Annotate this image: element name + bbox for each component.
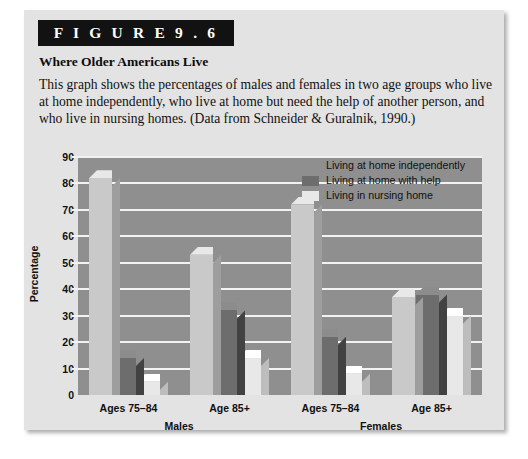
legend-label: Living at home with help xyxy=(326,174,441,186)
x-group-label: Females xyxy=(360,420,402,432)
bar-front-face xyxy=(190,255,213,395)
x-category-label: Ages 75–84 xyxy=(302,402,360,414)
bar-front-face xyxy=(89,178,112,395)
x-category-label: Age 85+ xyxy=(411,402,452,414)
bar-side-face xyxy=(112,178,120,395)
bar-side-face xyxy=(136,358,144,395)
figure-number-label: F I G U R E 9 . 6 xyxy=(38,20,234,46)
bar-top-face xyxy=(190,247,213,255)
legend-item: Living at home independently xyxy=(302,159,528,173)
y-tick-label: 40 xyxy=(50,283,74,295)
y-tick-label: 80 xyxy=(50,177,74,189)
plot-area: Living at home independentlyLiving at ho… xyxy=(78,157,482,395)
y-axis-label: Percentage xyxy=(28,246,40,303)
y-tick-label: 70 xyxy=(50,204,74,216)
y-tick-label: 30 xyxy=(50,310,74,322)
figure-title: Where Older Americans Live xyxy=(39,54,489,70)
bar-top-face xyxy=(89,170,112,178)
y-tick-label: 10 xyxy=(50,363,74,375)
bar xyxy=(89,178,112,395)
bar-side-face xyxy=(362,374,370,395)
y-tick-label: 20 xyxy=(50,336,74,348)
bar-side-face xyxy=(261,358,269,395)
legend-swatch xyxy=(302,161,319,171)
bar-side-face xyxy=(314,205,322,395)
legend-label: Living in nursing home xyxy=(326,189,433,201)
legend-item: Living at home with help xyxy=(302,174,528,188)
figure-card: F I G U R E 9 . 6 Where Older Americans … xyxy=(24,10,504,430)
x-category-label: Age 85+ xyxy=(209,402,250,414)
x-group-label: Males xyxy=(164,420,193,432)
bar-side-face xyxy=(415,297,423,395)
y-tick-label: 60 xyxy=(50,230,74,242)
bar xyxy=(291,205,314,395)
figure-banner: F I G U R E 9 . 6 xyxy=(38,20,234,46)
bar-side-face xyxy=(463,316,471,395)
legend-item: Living in nursing home xyxy=(302,189,528,203)
y-axis-ticks: 0102030405060708090 xyxy=(44,157,74,395)
bar xyxy=(190,255,213,395)
bar-front-face xyxy=(392,297,415,395)
bar-side-face xyxy=(160,382,168,395)
chart: Percentage 0102030405060708090 Living at… xyxy=(24,130,504,430)
y-tick-label: 50 xyxy=(50,257,74,269)
x-category-label: Ages 75–84 xyxy=(100,402,158,414)
bar-top-face xyxy=(291,197,314,205)
bar-side-face xyxy=(338,337,346,395)
bar-front-face xyxy=(291,205,314,395)
bar-side-face xyxy=(213,255,221,395)
bar-side-face xyxy=(237,310,245,395)
y-tick-label: 90 xyxy=(50,151,74,163)
chart-legend: Living at home independentlyLiving at ho… xyxy=(302,159,528,204)
bar-top-face xyxy=(392,289,415,297)
legend-label: Living at home independently xyxy=(326,159,465,171)
bar-top-face xyxy=(416,287,439,295)
y-tick-label: 0 xyxy=(50,389,74,401)
bar-side-face xyxy=(439,295,447,395)
bar xyxy=(392,297,415,395)
legend-swatch xyxy=(302,176,319,186)
figure-caption: This graph shows the percentages of male… xyxy=(39,76,495,128)
